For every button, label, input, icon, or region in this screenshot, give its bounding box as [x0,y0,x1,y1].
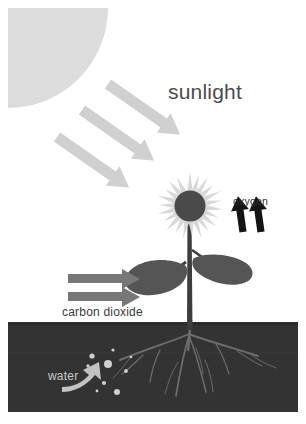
label-water: water [48,369,78,383]
label-carbon-dioxide: carbon dioxide [62,305,143,319]
diagram-canvas [0,0,306,424]
label-sunlight: sunlight [168,80,242,104]
photosynthesis-diagram: sunlight oxygen carbon dioxide water [0,0,306,424]
label-oxygen: oxygen [233,195,268,207]
flower-center [175,191,206,222]
